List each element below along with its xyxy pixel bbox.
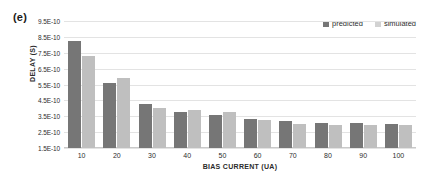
bar-group: 50 [205,21,240,148]
bar-predicted [174,112,187,149]
bar-predicted [209,115,222,148]
y-tick-label: 8.5E-10 [38,33,60,40]
bar-groups: 102030405060708090100 [64,21,416,148]
x-tick-label: 100 [393,152,405,159]
bar-predicted [139,104,152,148]
y-tick-label: 6.5E-10 [38,65,60,72]
y-tick-label: 7.5E-10 [38,49,60,56]
bar-simulated [329,125,342,148]
bar-group: 80 [310,21,345,148]
gridline: 1.5E-10 [64,148,416,149]
chart-figure: (e) DELAY (S) predicted simulated 1.5E-1… [0,0,434,181]
bar-simulated [399,125,412,148]
bar-predicted [350,123,363,148]
bar-group: 30 [134,21,169,148]
bar-group: 100 [381,21,416,148]
y-tick-label: 5.5E-10 [38,81,60,88]
bar-predicted [279,121,292,148]
bar-group: 70 [275,21,310,148]
x-tick-label: 30 [148,152,156,159]
y-tick-label: 4.5E-10 [38,97,60,104]
bar-predicted [385,124,398,148]
bar-simulated [188,110,201,148]
bar-simulated [153,108,166,148]
bar-group: 90 [346,21,381,148]
bar-simulated [82,56,95,148]
x-tick-label: 70 [289,152,297,159]
y-tick-label: 3.5E-10 [38,113,60,120]
plot-area: 1.5E-102.5E-103.5E-104.5E-105.5E-106.5E-… [64,21,416,148]
x-tick-label: 40 [183,152,191,159]
bar-group: 40 [170,21,205,148]
bar-predicted [68,41,81,148]
y-tick-label: 1.5E-10 [38,145,60,152]
y-axis-title: DELAY (S) [29,24,36,104]
bar-predicted [244,119,257,148]
bar-simulated [258,120,271,148]
bar-simulated [117,78,130,148]
bar-predicted [315,123,328,148]
x-tick-label: 10 [78,152,86,159]
bar-simulated [293,124,306,148]
panel-label: (e) [13,11,27,23]
bar-predicted [103,83,116,148]
x-tick-label: 60 [254,152,262,159]
x-tick-label: 90 [359,152,367,159]
y-tick-label: 9.5E-10 [38,18,60,25]
bar-group: 60 [240,21,275,148]
x-tick-label: 20 [113,152,121,159]
y-tick-label: 2.5E-10 [38,129,60,136]
x-tick-label: 50 [219,152,227,159]
x-tick-label: 80 [324,152,332,159]
bar-group: 20 [99,21,134,148]
x-axis-title: BIAS CURRENT (UA) [64,163,416,170]
bar-group: 10 [64,21,99,148]
bar-simulated [364,125,377,148]
bar-simulated [223,112,236,148]
